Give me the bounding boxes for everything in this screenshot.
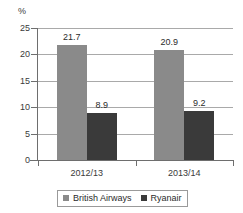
chart-legend: British AirwaysRyanair [57,190,188,207]
legend-swatch-icon [63,195,69,201]
bar-chart: % 0510152025 21.78.920.99.2 2012/132013/… [0,0,243,213]
x-axis-category-label: 2012/13 [57,168,117,178]
y-axis-tick-label: 20 [4,50,30,59]
x-axis-category-label: 2013/14 [154,168,214,178]
legend-item-label: British Airways [73,193,132,203]
y-axis-tick-label: 0 [4,156,30,165]
bar-value-label: 8.9 [81,101,123,110]
plot-area: 21.78.920.99.2 [38,28,233,160]
x-axis-tick-mark [38,160,39,166]
x-axis-line [30,160,233,161]
x-axis-tick-mark [136,160,137,166]
y-axis-tick-label: 5 [4,130,30,139]
y-axis-tick-label: 25 [4,24,30,33]
y-axis-tick-labels: 0510152025 [0,0,30,213]
bar-value-label: 21.7 [51,33,93,42]
y-axis-tick-label: 10 [4,103,30,112]
bar [184,111,214,160]
bar-value-label: 20.9 [148,38,190,47]
bar-value-label: 9.2 [178,99,220,108]
legend-item[interactable]: British Airways [63,193,132,203]
legend-item-label: Ryanair [151,193,182,203]
x-axis-tick-mark [233,160,234,166]
bar [87,113,117,160]
legend-item[interactable]: Ryanair [141,193,182,203]
legend-swatch-icon [141,195,147,201]
y-axis-tick-label: 15 [4,77,30,86]
